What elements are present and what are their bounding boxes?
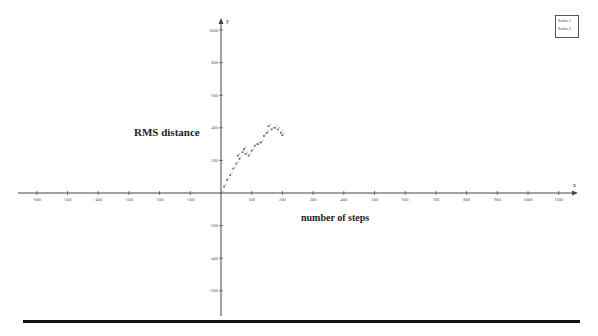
y-tick-label: 800 (211, 60, 219, 65)
y-axis-title: RMS distance (134, 126, 200, 138)
x-tick-label: 1000 (524, 197, 534, 202)
data-point (242, 151, 244, 153)
data-point (239, 158, 241, 160)
data-point-jitter (284, 133, 285, 134)
y-axis-arrow-icon (219, 18, 224, 24)
y-tick-label: 600 (211, 93, 219, 98)
data-point-jitter (228, 178, 229, 179)
data-point-jitter (273, 127, 274, 128)
data-point (271, 129, 273, 131)
data-point-jitter (253, 148, 254, 149)
x-tick-label: 100 (248, 197, 256, 202)
data-point-jitter (222, 191, 223, 192)
data-point-jitter (225, 184, 226, 185)
data-point-jitter (238, 161, 239, 162)
x-tick-label: -100 (186, 197, 195, 202)
data-point (226, 179, 228, 181)
data-point-jitter (282, 130, 283, 131)
bottom-divider-bar (23, 320, 580, 323)
data-point (254, 145, 256, 147)
data-point-jitter (247, 152, 248, 153)
x-tick-label: -500 (63, 197, 72, 202)
y-tick-label: -600 (210, 288, 219, 293)
data-point (251, 150, 253, 152)
data-point-jitter (234, 166, 235, 167)
data-point (248, 155, 250, 157)
data-point (263, 135, 265, 137)
data-point-jitter (245, 147, 246, 148)
data-point (280, 132, 282, 134)
data-point-jitter (231, 173, 232, 174)
data-point (237, 155, 239, 157)
x-tick-label: -400 (94, 197, 103, 202)
data-point (260, 142, 262, 144)
data-point (277, 129, 279, 131)
data-point (232, 168, 234, 170)
data-point-jitter (241, 157, 242, 158)
data-point (245, 153, 247, 155)
data-point-jitter (268, 130, 269, 131)
y-tick-label: -400 (210, 256, 219, 261)
data-point (266, 132, 268, 134)
data-point (220, 192, 222, 194)
data-point-jitter (265, 134, 266, 135)
data-point-jitter (239, 153, 240, 154)
x-tick-label: 600 (402, 197, 410, 202)
x-tick-label: 200 (279, 197, 287, 202)
x-tick-label: -200 (155, 197, 164, 202)
data-point-jitter (244, 150, 245, 151)
y-axis-name: y (226, 18, 229, 24)
x-tick-label: 700 (433, 197, 441, 202)
x-tick-label: -600 (33, 197, 42, 202)
data-point-jitter (259, 142, 260, 143)
x-axis-arrow-icon (572, 191, 578, 196)
x-axis-title: number of steps (301, 212, 369, 223)
data-point (229, 174, 231, 176)
legend-item-series-2: Series 2 (558, 25, 576, 33)
x-tick-label: 800 (463, 197, 471, 202)
y-tick-label: -200 (210, 223, 219, 228)
chart-plot-area: xy-600-500-400-300-200-10010020030040050… (0, 0, 598, 336)
x-tick-label: 400 (340, 197, 348, 202)
x-tick-label: 1100 (554, 197, 564, 202)
data-point (223, 186, 225, 188)
y-tick-label: 1000 (209, 28, 219, 33)
data-point (235, 163, 237, 165)
data-point-jitter (276, 126, 277, 127)
data-point (268, 125, 270, 127)
data-point (257, 143, 259, 145)
data-point (282, 134, 284, 136)
y-tick-label: 200 (211, 158, 219, 163)
x-tick-label: 300 (310, 197, 318, 202)
chart-legend: Series 1 Series 2 (555, 15, 579, 38)
data-point-jitter (256, 144, 257, 145)
data-point-jitter (270, 124, 271, 125)
legend-item-series-1: Series 1 (558, 17, 576, 25)
x-axis-name: x (573, 182, 576, 188)
x-tick-label: 500 (371, 197, 379, 202)
data-point (274, 127, 276, 129)
data-point-jitter (262, 140, 263, 141)
data-point-jitter (279, 127, 280, 128)
data-point (243, 148, 245, 150)
data-point-jitter (250, 153, 251, 154)
x-tick-label: -300 (125, 197, 134, 202)
y-tick-label: 400 (211, 125, 219, 130)
x-tick-label: 900 (494, 197, 502, 202)
